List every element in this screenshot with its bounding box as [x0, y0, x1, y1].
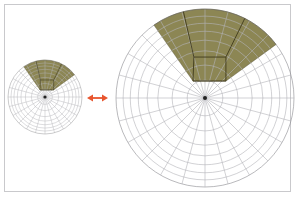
polar-diagram-canvas — [0, 0, 296, 198]
double-arrow-icon — [87, 95, 108, 102]
small-polar-diagram — [8, 60, 82, 134]
center-point — [203, 96, 207, 100]
center-point — [43, 95, 46, 98]
large-polar-diagram — [116, 9, 294, 187]
